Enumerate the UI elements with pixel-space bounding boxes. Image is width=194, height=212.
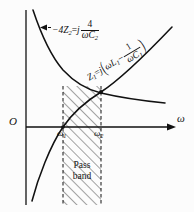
z2-lhs: −4Z — [52, 25, 68, 35]
z2-denominator-sub: 2 — [95, 34, 98, 41]
x-axis-arrowhead — [167, 124, 176, 131]
z2-fraction: 4ωC2 — [81, 20, 99, 42]
origin-label: O — [9, 116, 17, 127]
z2-label-pointer-arrow-icon — [40, 25, 47, 31]
z2-denominator-base: ωC — [82, 30, 95, 40]
reactance-passband-figure: O ω ω1 ω2 Pass band −4Z2=j4ωC2 Z1=j(ωL1−… — [0, 0, 194, 212]
tick-label-omega-2: ω2 — [94, 129, 103, 139]
x-axis-label: ω — [177, 113, 185, 124]
curve-z2-annotation: −4Z2=j4ωC2 — [52, 20, 100, 42]
z2-numerator: 4 — [81, 20, 99, 30]
passband-region — [63, 86, 101, 205]
tick-omega-2-sub: 2 — [100, 133, 103, 139]
passband-label: Pass band — [62, 160, 102, 182]
z2-denominator: ωC2 — [81, 30, 99, 42]
curve-Z1 — [32, 27, 172, 201]
crossing-omega-2-marker — [99, 90, 103, 94]
tick-label-omega-1: ω1 — [57, 129, 66, 139]
z2-j: j — [77, 25, 80, 35]
passband-label-line2: band — [62, 171, 102, 182]
passband-label-line1: Pass — [62, 160, 102, 171]
tick-omega-1-sub: 1 — [63, 133, 66, 139]
